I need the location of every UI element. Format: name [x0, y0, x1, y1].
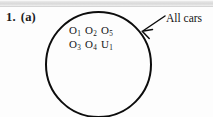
figure-canvas: 1.(a) O1O2O5 O3O4U1 All cars: [0, 0, 213, 117]
set-caption: All cars: [166, 12, 202, 24]
leader-line: [144, 16, 166, 31]
arrowhead-icon: [142, 30, 152, 39]
